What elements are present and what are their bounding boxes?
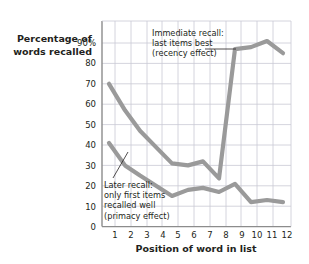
annotation-recency: Immediate recall: last items best (recen… — [152, 28, 224, 59]
annotation-primacy: Later recall: only first items recalled … — [104, 180, 170, 221]
serial-position-chart: Percentage of words recalled Position of… — [0, 0, 309, 264]
